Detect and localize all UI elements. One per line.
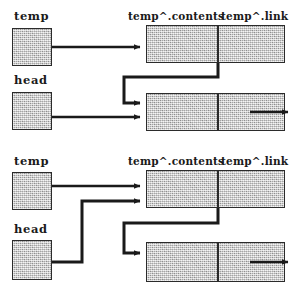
list-node-1-top xyxy=(146,25,285,63)
node-field-divider xyxy=(217,26,219,62)
label-head-top: head xyxy=(14,73,48,87)
variable-box-temp-top xyxy=(12,28,52,66)
variable-box-head-top xyxy=(12,92,52,130)
list-node-1-bottom xyxy=(146,170,285,208)
variable-box-temp-bottom xyxy=(12,172,52,210)
linked-list-diagram: temp head temp^.contents temp^.link xyxy=(0,0,296,293)
label-head-bottom: head xyxy=(14,222,48,236)
label-node-link-top: temp^.link xyxy=(221,10,288,22)
node-field-divider xyxy=(217,171,219,207)
variable-box-head-bottom xyxy=(12,240,52,280)
label-node-link-bottom: temp^.link xyxy=(221,155,288,167)
list-node-2-top xyxy=(146,93,285,131)
label-temp-top: temp xyxy=(14,9,49,23)
diagram-panel-before: temp head temp^.contents temp^.link xyxy=(0,0,296,146)
label-temp-bottom: temp xyxy=(14,154,49,168)
diagram-panel-after: temp head temp^.contents temp^.link xyxy=(0,146,296,293)
list-node-2-bottom xyxy=(146,242,285,282)
arrow-head-to-node1-bottom xyxy=(52,201,140,262)
node-field-divider xyxy=(217,94,219,130)
node-field-divider xyxy=(217,243,219,281)
label-node-contents-top: temp^.contents xyxy=(128,10,224,22)
label-node-contents-bottom: temp^.contents xyxy=(128,155,224,167)
